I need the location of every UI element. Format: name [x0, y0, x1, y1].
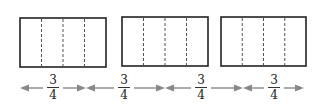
arrowhead-right-icon: [295, 85, 304, 92]
numerator: 3: [45, 74, 61, 86]
numerator: 3: [193, 74, 209, 86]
arrowhead-left-icon: [20, 85, 29, 92]
arrowhead-left-icon: [165, 85, 174, 92]
fraction-label: 34: [193, 74, 209, 101]
denominator: 4: [193, 89, 209, 101]
arrowhead-left-icon: [243, 85, 252, 92]
fraction-label: 34: [266, 74, 282, 101]
numerator: 3: [266, 74, 282, 86]
denominator: 4: [45, 89, 61, 101]
denominator: 4: [116, 89, 132, 101]
denominator: 4: [266, 89, 282, 101]
arrowhead-right-icon: [77, 85, 86, 92]
arrowhead-left-icon: [86, 85, 95, 92]
fraction-label: 34: [45, 74, 61, 101]
arrowhead-right-icon: [234, 85, 243, 92]
arrowhead-right-icon: [156, 85, 165, 92]
fraction-label: 34: [116, 74, 132, 101]
numerator: 3: [116, 74, 132, 86]
